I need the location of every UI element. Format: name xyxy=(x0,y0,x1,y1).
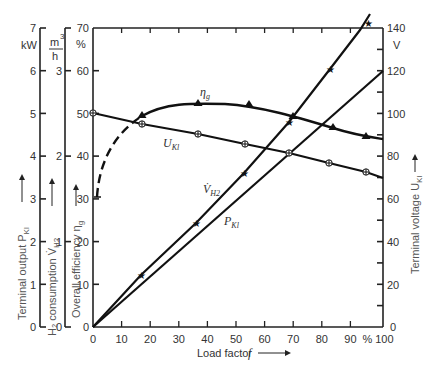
circle-plus-marker-icon xyxy=(139,121,145,127)
axis-title-subscript: Kl xyxy=(22,227,31,234)
tick-label: 7 xyxy=(30,22,36,34)
tick-label: 40 xyxy=(387,236,399,248)
curve-label-p-kl: PKl xyxy=(223,214,240,230)
circle-plus-marker-icon xyxy=(195,131,201,137)
star-marker-icon: ★ xyxy=(240,168,249,179)
tick-label: 60 xyxy=(258,333,270,345)
tick-label: 90 xyxy=(344,333,356,345)
axis-title-text: H₂ consumption V̇ xyxy=(46,247,58,336)
tick-label: 5 xyxy=(30,108,36,120)
efficiency-axis xyxy=(93,28,383,327)
tick-label: 140 xyxy=(387,22,405,34)
x-axis-label: Load factor f xyxy=(197,346,291,360)
arrow-up-icon xyxy=(49,178,55,184)
circle-plus-marker-icon xyxy=(363,169,369,175)
tick-label: 40 xyxy=(201,333,213,345)
axis-title-subscript: H2 xyxy=(52,237,61,248)
curve-label-u-kl: UKl xyxy=(163,136,180,152)
tick-label: 20 xyxy=(387,279,399,291)
axis-title-subscript: g xyxy=(76,221,85,225)
svg-text:Terminal voltage UKl: Terminal voltage UKl xyxy=(409,176,424,274)
circle-plus-marker-icon xyxy=(242,141,248,147)
x-label-text: Load factor xyxy=(197,347,252,359)
series-p-kl-line xyxy=(93,71,383,327)
x-axis-tick-labels: 0 10 20 30 40 50 60 70 80 90 % 100 xyxy=(90,333,394,345)
tick-label: 4 xyxy=(30,150,36,162)
tick-label: 60 xyxy=(387,193,399,205)
kw-unit: kW xyxy=(21,39,38,51)
tick-label: 2 xyxy=(56,150,62,162)
axis-title-text: Terminal output P xyxy=(16,234,28,320)
volt-unit: V xyxy=(393,39,401,51)
star-marker-icon: ★ xyxy=(326,64,335,75)
unit-denominator: h xyxy=(52,50,58,62)
circle-plus-marker-icon xyxy=(326,160,332,166)
tick-label: 1 xyxy=(30,279,36,291)
voltage-axis-ticks: 140 120 100 80 60 40 20 0 xyxy=(387,22,405,333)
axis-title-text: Overall efficiency η xyxy=(70,225,82,318)
tick-label: 2 xyxy=(30,236,36,248)
tick-label: 70 xyxy=(77,22,89,34)
fuel-cell-performance-chart: 7 6 5 4 3 2 1 0 kW 3 2 1 0 m 3 h xyxy=(0,0,427,369)
curve-label-eta-g: ηg xyxy=(200,85,210,101)
series-eta-g-solid xyxy=(142,104,383,139)
arrow-up-icon xyxy=(412,154,418,160)
tick-label: 10 xyxy=(115,333,127,345)
tick-label: 120 xyxy=(387,65,405,77)
triangle-marker-icon xyxy=(245,100,254,107)
arrow-up-icon xyxy=(73,184,79,190)
tick-label: 30 xyxy=(173,333,185,345)
tick-label: 0 xyxy=(30,321,36,333)
tick-label: 70 xyxy=(287,333,299,345)
h2-axis-title: H₂ consumption V̇H2 xyxy=(46,178,61,336)
unit-superscript: 3 xyxy=(60,32,65,41)
circle-plus-marker-icon xyxy=(286,150,292,156)
triangle-marker-icon xyxy=(194,99,203,106)
x-label-variable: f xyxy=(248,346,253,360)
star-marker-icon: ★ xyxy=(192,218,201,229)
power-axis-title: Terminal output PKl xyxy=(16,174,31,320)
voltage-axis-title: Terminal voltage UKl xyxy=(409,154,424,274)
tick-label: 60 xyxy=(77,65,89,77)
series-vh2-line xyxy=(93,14,370,327)
series-eta-g-dashed xyxy=(97,116,142,197)
tick-label: 50 xyxy=(77,108,89,120)
tick-label: % 100 xyxy=(362,333,393,345)
tick-label: 0 xyxy=(90,333,96,345)
axis-title-text: Terminal voltage U xyxy=(409,183,421,274)
tick-label: 100 xyxy=(387,108,405,120)
percent-unit: % xyxy=(76,38,86,50)
tick-label: 30 xyxy=(77,193,89,205)
arrow-up-icon xyxy=(19,174,25,180)
power-axis-ticks: 7 6 5 4 3 2 1 0 xyxy=(30,22,36,333)
tick-label: 0 xyxy=(390,321,396,333)
curve-label-vh2: V̇H2 xyxy=(203,182,220,198)
circle-plus-marker-icon xyxy=(90,110,96,116)
tick-label: 80 xyxy=(316,333,328,345)
tick-label: 40 xyxy=(77,150,89,162)
tick-label: 3 xyxy=(30,193,36,205)
star-marker-icon: ★ xyxy=(137,270,146,281)
tick-label: 0 xyxy=(83,321,89,333)
star-marker-icon: ★ xyxy=(364,18,373,29)
x-axis-ticks-marks xyxy=(122,28,351,327)
series-u-kl-line xyxy=(93,113,383,178)
tick-label: 50 xyxy=(230,333,242,345)
axis-title-subscript: Kl xyxy=(415,176,424,183)
svg-text:Terminal output PKl: Terminal output PKl xyxy=(16,227,31,320)
tick-label: 6 xyxy=(30,65,36,77)
tick-label: 20 xyxy=(144,333,156,345)
unit-numerator: m xyxy=(50,36,59,48)
m3-per-h-unit: m 3 h xyxy=(49,32,65,62)
tick-label: 80 xyxy=(387,150,399,162)
arrow-right-icon xyxy=(285,350,291,356)
tick-label: 3 xyxy=(56,65,62,77)
